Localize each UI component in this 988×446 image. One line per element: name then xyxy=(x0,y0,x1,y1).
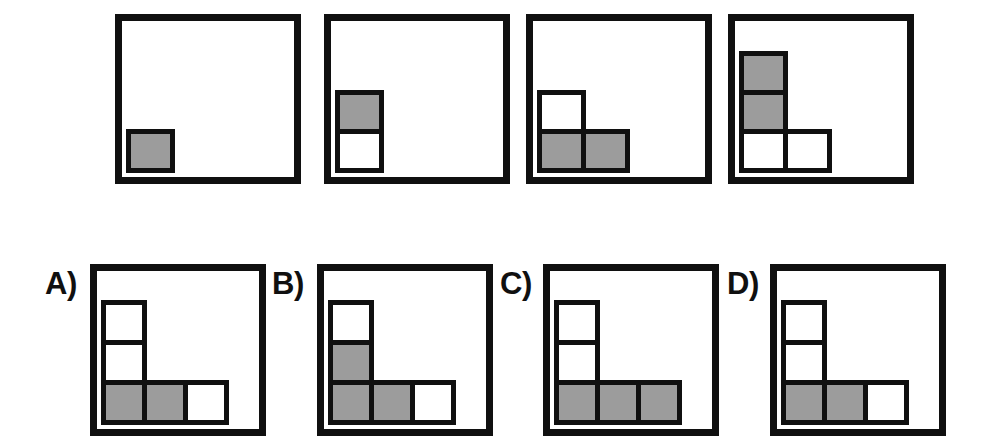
option-d-cell-r2c2-blank xyxy=(863,380,909,425)
option-b-cell-r2c1-shaded xyxy=(369,380,415,425)
sequence-panel-2-cell-r1c0-shaded xyxy=(335,90,384,134)
sequence-panel-3-cell-r2c1-shaded xyxy=(581,129,630,173)
option-d-cell-r2c0-shaded xyxy=(781,380,827,425)
option-d-canvas xyxy=(777,271,939,429)
sequence-panel-4-cell-r2c0-blank xyxy=(739,129,788,173)
option-a-label: A) xyxy=(45,268,77,299)
option-b-cell-r2c0-shaded xyxy=(328,380,374,425)
option-c-canvas xyxy=(550,271,712,429)
option-b-label: B) xyxy=(272,268,304,299)
option-b[interactable] xyxy=(317,264,493,436)
sequence-panel-3-canvas xyxy=(533,21,705,177)
sequence-panel-2-cell-r2c0-blank xyxy=(335,129,384,173)
option-a-canvas xyxy=(97,271,259,429)
option-c[interactable] xyxy=(543,264,719,436)
option-c-cell-r2c2-shaded xyxy=(636,380,682,425)
option-b-cell-r2c2-blank xyxy=(410,380,456,425)
sequence-panel-1 xyxy=(115,14,301,184)
sequence-panel-4-cell-r1c0-shaded xyxy=(739,90,788,134)
option-c-cell-r2c1-shaded xyxy=(595,380,641,425)
option-c-cell-r2c0-shaded xyxy=(554,380,600,425)
sequence-panel-3-cell-r2c0-shaded xyxy=(537,129,586,173)
option-a-cell-r2c2-blank xyxy=(183,380,229,425)
sequence-row xyxy=(0,14,988,186)
option-d-cell-r1c0-blank xyxy=(781,340,827,385)
option-b-cell-r0c0-blank xyxy=(328,300,374,345)
option-a-cell-r2c1-shaded xyxy=(142,380,188,425)
option-a[interactable] xyxy=(90,264,266,436)
option-d[interactable] xyxy=(770,264,946,436)
sequence-panel-1-canvas xyxy=(122,21,294,177)
option-b-canvas xyxy=(324,271,486,429)
sequence-panel-4-canvas xyxy=(735,21,907,177)
sequence-panel-2-canvas xyxy=(331,21,503,177)
options-row: A)B)C)D) xyxy=(0,262,988,440)
sequence-panel-4-cell-r0c0-shaded xyxy=(739,51,788,95)
sequence-panel-2 xyxy=(324,14,510,184)
option-a-cell-r0c0-blank xyxy=(101,300,147,345)
option-a-cell-r1c0-blank xyxy=(101,340,147,385)
option-a-cell-r2c0-shaded xyxy=(101,380,147,425)
option-c-label: C) xyxy=(500,268,532,299)
sequence-panel-3-cell-r1c0-blank xyxy=(537,90,586,134)
sequence-panel-1-cell-r2c0-shaded xyxy=(126,129,175,173)
option-c-cell-r1c0-blank xyxy=(554,340,600,385)
option-d-label: D) xyxy=(727,268,759,299)
sequence-panel-4-cell-r2c1-blank xyxy=(783,129,832,173)
option-d-cell-r0c0-blank xyxy=(781,300,827,345)
sequence-panel-4 xyxy=(728,14,914,184)
option-c-cell-r0c0-blank xyxy=(554,300,600,345)
option-b-cell-r1c0-shaded xyxy=(328,340,374,385)
sequence-panel-3 xyxy=(526,14,712,184)
visual-sequence-puzzle: A)B)C)D) xyxy=(0,0,988,446)
option-d-cell-r2c1-shaded xyxy=(822,380,868,425)
